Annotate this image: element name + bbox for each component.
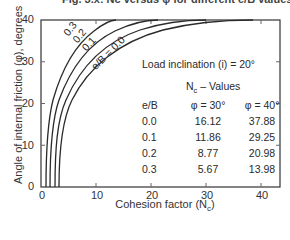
cell-phi40: 29.25	[242, 131, 282, 143]
x-axis-label-end: )	[211, 198, 215, 210]
curve-eB-0.1	[55, 20, 206, 187]
cell-phi40: 20.98	[242, 147, 282, 159]
x-axis-label-text: Cohesion factor (N	[115, 198, 207, 210]
cell-phi30: 16.12	[188, 115, 228, 127]
nc-prefix: N	[186, 80, 194, 92]
header-eB: e/B	[142, 99, 172, 111]
header-phi30: φ = 30°	[188, 99, 228, 111]
x-tick-40: 40	[252, 189, 272, 201]
cell-eB: 0.1	[142, 131, 172, 143]
cell-phi30: 8.77	[188, 147, 228, 159]
y-axis-label: Angle of internal friction (φ), degrees	[12, 24, 24, 184]
cell-phi30: 11.86	[188, 131, 228, 143]
cell-eB: 0.2	[142, 147, 172, 159]
cell-phi30: 5.67	[188, 163, 228, 175]
load-inclination-label: Load inclination (i) = 20°	[142, 58, 255, 70]
nc-values-title: Nc – Values	[186, 80, 240, 95]
header-phi40: φ = 40°	[242, 99, 282, 111]
x-axis-label: Cohesion factor (Nc)	[100, 198, 230, 213]
x-tick-0: 0	[32, 189, 52, 201]
nc-suffix: – Values	[197, 80, 240, 92]
cell-eB: 0.0	[142, 115, 172, 127]
cell-eB: 0.3	[142, 163, 172, 175]
cell-phi40: 13.98	[242, 163, 282, 175]
cell-phi40: 37.88	[242, 115, 282, 127]
